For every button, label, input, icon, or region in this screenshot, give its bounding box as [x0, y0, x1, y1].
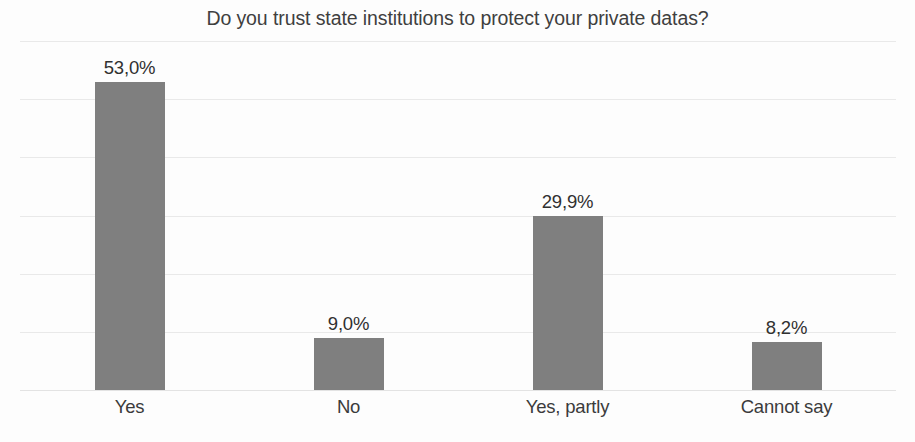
category-tick: Yes	[20, 392, 239, 422]
chart-title: Do you trust state institutions to prote…	[0, 4, 915, 32]
bar-slot: 53,0%	[20, 41, 239, 390]
bar[interactable]	[752, 342, 822, 390]
bar-slot: 29,9%	[458, 41, 677, 390]
bar[interactable]	[533, 216, 603, 390]
category-label: Yes, partly	[526, 396, 610, 417]
bar-slot: 8,2%	[677, 41, 896, 390]
bar[interactable]	[314, 338, 384, 390]
bar-value-label: 8,2%	[766, 317, 807, 339]
category-label: Cannot say	[741, 396, 833, 417]
category-tick: Cannot say	[677, 392, 896, 422]
bars-layer: 53,0%9,0%29,9%8,2%	[20, 41, 896, 390]
category-tick: No	[239, 392, 458, 422]
bar-value-label: 53,0%	[104, 57, 155, 79]
category-tick: Yes, partly	[458, 392, 677, 422]
bar-value-label: 9,0%	[328, 313, 369, 335]
category-label: No	[337, 396, 360, 417]
bar-chart: Do you trust state institutions to prote…	[0, 0, 915, 442]
bar-value-label: 29,9%	[542, 191, 593, 213]
category-label: Yes	[115, 396, 145, 417]
category-axis: YesNoYes, partlyCannot say	[20, 392, 896, 426]
bar[interactable]	[95, 82, 165, 390]
bar-slot: 9,0%	[239, 41, 458, 390]
axis-baseline	[20, 390, 896, 391]
